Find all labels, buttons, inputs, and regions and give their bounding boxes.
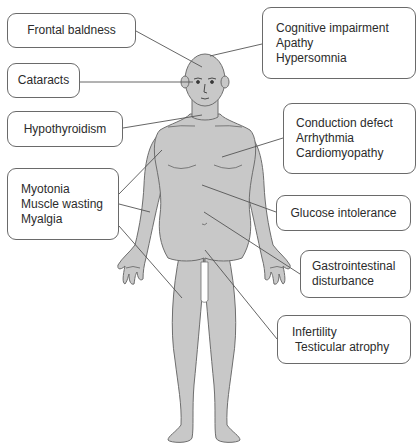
label-text: Gastrointestinal <box>312 259 400 274</box>
label-cognitive: Cognitive impairment Apathy Hypersomnia <box>262 7 416 79</box>
label-text: Conduction defect <box>296 116 405 131</box>
right-leg <box>168 252 205 442</box>
label-text: Infertility <box>292 325 400 340</box>
label-reproductive: Infertility Testicular atrophy <box>277 315 411 364</box>
label-cardiac: Conduction defect Arrhythmia Cardiomyopa… <box>283 103 416 174</box>
label-text: Cataracts <box>18 73 69 88</box>
label-text: disturbance <box>312 274 400 289</box>
label-text: Myotonia <box>21 182 108 197</box>
left-leg <box>203 252 240 442</box>
label-text: Glucose intolerance <box>290 206 396 221</box>
label-text: Frontal baldness <box>27 23 116 38</box>
label-text: Arrhythmia <box>296 131 405 146</box>
leader-frontal-baldness <box>136 31 202 67</box>
label-text: Apathy <box>276 36 405 51</box>
label-glucose: Glucose intolerance <box>276 195 411 231</box>
label-gastro: Gastrointestinal disturbance <box>300 250 411 298</box>
head <box>185 54 225 106</box>
label-text: Myalgia <box>21 212 108 227</box>
label-text: Cardiomyopathy <box>296 146 405 161</box>
leader-cognitive <box>210 44 262 56</box>
label-muscle: Myotonia Muscle wasting Myalgia <box>7 168 119 240</box>
myotonic-dystrophy-diagram: Frontal baldness Cataracts Hypothyroidis… <box>0 0 417 446</box>
label-hypothyroidism: Hypothyroidism <box>7 111 123 147</box>
label-cataracts: Cataracts <box>7 63 80 98</box>
label-text: Testicular atrophy <box>292 340 400 355</box>
label-frontal-baldness: Frontal baldness <box>7 13 136 48</box>
label-text: Hypothyroidism <box>24 122 107 137</box>
label-text: Muscle wasting <box>21 197 108 212</box>
left-ear <box>221 76 229 88</box>
label-text: Hypersomnia <box>276 51 405 66</box>
label-text: Cognitive impairment <box>276 21 405 36</box>
